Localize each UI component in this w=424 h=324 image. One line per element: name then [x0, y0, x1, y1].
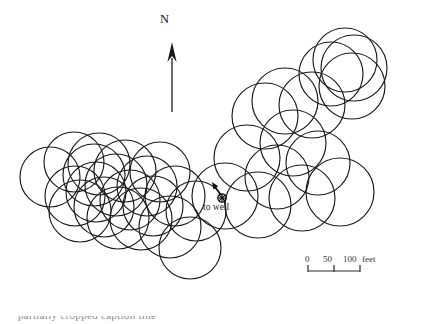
- well-arrow-head: [212, 182, 218, 189]
- survey-circles-group: [20, 28, 387, 279]
- survey-circle: [306, 158, 374, 226]
- survey-circle: [232, 83, 298, 149]
- north-label: N: [160, 13, 169, 26]
- figure-survey-circle-map: N to well 0 50 100 feet partially croppe…: [0, 0, 424, 324]
- map-canvas: [0, 0, 424, 324]
- survey-circle: [299, 42, 363, 106]
- caption-strip: partially cropped caption line: [0, 316, 424, 324]
- north-arrow: [167, 42, 176, 112]
- scale-bar: [308, 265, 360, 272]
- survey-circle: [286, 131, 350, 195]
- well-label: to well: [203, 203, 229, 213]
- survey-circle: [225, 172, 291, 238]
- survey-circle: [85, 154, 147, 216]
- scale-label-50: 50: [323, 254, 332, 264]
- scale-label-100: 100: [343, 254, 357, 264]
- scale-label-unit: feet: [362, 254, 376, 264]
- survey-circle: [130, 142, 190, 202]
- survey-circle: [214, 125, 280, 191]
- scale-label-0: 0: [305, 254, 310, 264]
- survey-circle: [319, 53, 385, 119]
- caption-text: partially cropped caption line: [18, 316, 156, 321]
